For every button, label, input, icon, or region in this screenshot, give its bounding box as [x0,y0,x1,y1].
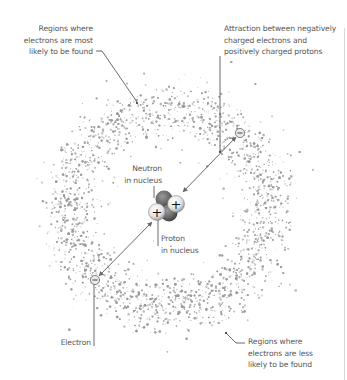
attraction-arrow-upper [183,137,236,192]
label-electron: Electron [61,337,91,349]
label-attraction: Attraction between negatively charged el… [224,23,336,58]
leader-most-likely [96,51,137,102]
leader-less-likely [226,333,245,343]
label-proton: Proton in nucleus [161,233,199,256]
attraction-arrow-lower [99,222,152,276]
electron-icon [90,275,99,284]
label-regions-less-likely: Regions where electrons are less likely … [248,336,313,371]
label-regions-most-likely: Regions where electrons are most likely … [24,23,93,58]
atom-diagram: + + Regions where electrons are most lik… [0,0,347,380]
proton-icon: + [168,196,185,213]
page-edge-divider [344,28,345,380]
electron-icon [235,128,244,137]
leader-dot [225,332,227,334]
svg-text:+: + [152,205,163,220]
proton-icon: + [149,204,166,221]
label-neutron: Neutron in nucleus [124,163,162,186]
leader-dot [136,102,138,104]
svg-text:+: + [171,197,182,212]
